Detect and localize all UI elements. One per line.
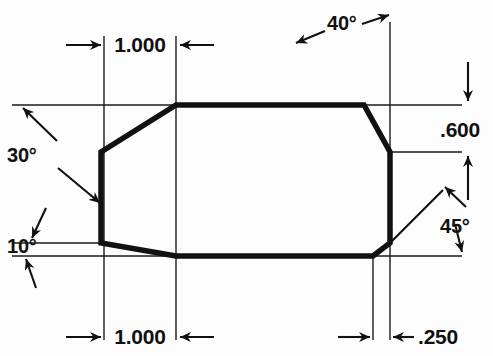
dimension-width-bottom: 1.000 [66, 325, 214, 348]
extension-lines-group [12, 22, 468, 340]
angle-leader-to-feature [58, 168, 100, 203]
dimension-chamfer-width-right: .250 [338, 325, 458, 348]
dimension-label-width-bottom: 1.000 [114, 325, 166, 348]
angle-leader-to-feature [390, 190, 443, 243]
dimension-label-chamfer-right: .250 [418, 325, 458, 348]
angle-label-40: 40° [327, 12, 357, 34]
angle-annotation-lower-left: 10° [7, 208, 46, 288]
technical-drawing-canvas: 1.000 1.000 .250 .600 30° [0, 0, 493, 356]
angle-annotation-upper-right: 40° [296, 12, 389, 43]
octagon-profile-outline [101, 105, 390, 256]
angle-label-10: 10° [7, 235, 37, 257]
dimension-label-height-right: .600 [440, 118, 480, 141]
dimension-height-right: .600 [440, 62, 480, 200]
angle-label-45: 45° [440, 215, 470, 237]
angle-leader-to-reference [362, 15, 389, 24]
angle-leader-to-reference [23, 108, 57, 141]
angle-annotation-upper-left: 30° [7, 108, 100, 203]
angle-leader-to-feature [26, 259, 36, 288]
angle-annotation-lower-right: 45° [390, 187, 470, 252]
angle-leader-to-reference [32, 208, 46, 238]
angle-leader-to-feature [296, 31, 325, 43]
angle-leader-to-reference [445, 187, 466, 207]
dimension-width-top: 1.000 [66, 33, 214, 56]
dimension-label-width-top: 1.000 [114, 33, 166, 56]
dimensioned-octagon-drawing: 1.000 1.000 .250 .600 30° [0, 0, 493, 356]
angle-label-30: 30° [7, 144, 37, 166]
